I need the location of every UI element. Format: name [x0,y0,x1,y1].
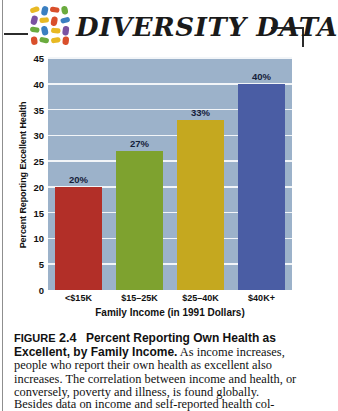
plot-area: 20%27%33%40% [48,58,292,290]
bar: 40% [238,84,284,290]
figure-caption-clipped-line: Besides data on income and self-reported… [14,398,300,411]
y-axis-tick-label: 30 [2,130,44,141]
figure-caption: Figure 2.4 Percent Reporting Own Health … [14,332,300,400]
bar: 20% [55,187,101,290]
x-axis-tick-label: $15–25K [109,293,170,303]
x-axis-tick-label: <$15K [48,293,109,303]
bar-value-label: 40% [252,71,271,82]
caption-figure-label: Figure 2.4 [14,332,77,344]
y-axis-tick-label: 15 [2,207,44,218]
caption-clipped-text: Besides data on income and self-reported… [14,398,274,411]
bars-layer: 20%27%33%40% [48,58,292,290]
bar-chart-figure: Percent Reporting Excellent Health 20%27… [0,52,309,325]
y-axis-tick-label: 35 [2,104,44,115]
y-axis-tick-label: 0 [2,285,44,296]
y-axis-tick-label: 5 [2,259,44,270]
header-rule-left [4,33,28,35]
bar-value-label: 20% [69,174,88,185]
x-axis-title: Family Income (in 1991 Dollars) [48,307,292,318]
diversity-data-header: DIVERSITY DATA [0,0,309,52]
bar: 27% [116,151,162,290]
y-axis-tick-label: 10 [2,233,44,244]
bar-value-label: 33% [191,107,210,118]
x-axis-tick-label: $25–40K [170,293,231,303]
y-axis-title: Percent Reporting Excellent Health [18,95,28,255]
bar: 33% [177,120,223,290]
y-axis-tick-label: 25 [2,156,44,167]
x-axis-tick-label: $40K+ [231,293,292,303]
y-axis-tick-label: 45 [2,53,44,64]
diversity-mosaic-logo-icon [28,5,72,47]
page-title: DIVERSITY DATA [76,8,271,46]
bar-value-label: 27% [130,138,149,149]
y-axis-tick-label: 20 [2,181,44,192]
y-axis-tick-label: 40 [2,78,44,89]
